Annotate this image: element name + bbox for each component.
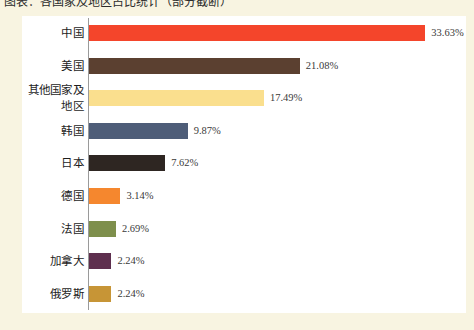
chart-canvas: 中国33.63%美国21.08%其他国家及地区17.49%韩国9.87%日本7.…: [22, 16, 466, 313]
cropped-heading-label: 图表：各国家及地区占比统计（部分截断）: [4, 0, 232, 9]
bar-row: 中国33.63%: [22, 25, 466, 41]
bar-row: 日本7.62%: [22, 155, 466, 171]
bar-segment[interactable]: [89, 286, 111, 302]
bar-category-label: 俄罗斯: [22, 286, 84, 302]
bar-category-label: 德国: [22, 188, 84, 204]
cropped-heading-text: 图表：各国家及地区占比统计（部分截断）: [0, 0, 474, 9]
bar-segment[interactable]: [89, 123, 188, 139]
bar-category-label: 其他国家及地区: [22, 82, 84, 114]
bar-segment[interactable]: [89, 25, 425, 41]
bar-row: 德国3.14%: [22, 188, 466, 204]
bar-value-label: 2.24%: [117, 253, 144, 269]
bar-category-label: 日本: [22, 155, 84, 171]
bar-category-label: 中国: [22, 25, 84, 41]
bar-row: 俄罗斯2.24%: [22, 286, 466, 302]
bar-value-label: 3.14%: [126, 188, 153, 204]
bar-chart-plot-area: 中国33.63%美国21.08%其他国家及地区17.49%韩国9.87%日本7.…: [22, 16, 466, 313]
bar-segment[interactable]: [89, 253, 111, 269]
bar-segment[interactable]: [89, 221, 116, 237]
bar-value-label: 9.87%: [194, 123, 221, 139]
bar-row: 加拿大2.24%: [22, 253, 466, 269]
bar-value-label: 17.49%: [270, 90, 302, 106]
bar-value-label: 21.08%: [306, 58, 338, 74]
bar-row: 其他国家及地区17.49%: [22, 90, 466, 106]
bar-value-label: 2.69%: [122, 221, 149, 237]
bar-row: 美国21.08%: [22, 58, 466, 74]
bar-row: 法国2.69%: [22, 221, 466, 237]
bar-category-label: 美国: [22, 58, 84, 74]
bar-category-label: 法国: [22, 221, 84, 237]
bar-segment[interactable]: [89, 155, 165, 171]
bar-segment[interactable]: [89, 188, 120, 204]
bar-category-label: 韩国: [22, 123, 84, 139]
bar-value-label: 33.63%: [431, 25, 463, 41]
bar-value-label: 2.24%: [117, 286, 144, 302]
bar-row: 韩国9.87%: [22, 123, 466, 139]
bar-category-label: 加拿大: [22, 253, 84, 269]
bar-segment[interactable]: [89, 58, 300, 74]
bar-segment[interactable]: [89, 90, 264, 106]
bar-value-label: 7.62%: [171, 155, 198, 171]
